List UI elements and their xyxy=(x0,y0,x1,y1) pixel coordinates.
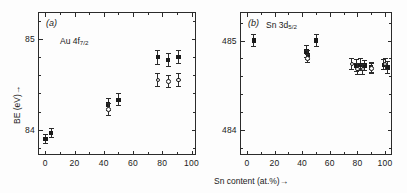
error-bar-cap xyxy=(383,69,388,70)
marker-filled-square xyxy=(49,131,53,135)
error-bar-cap xyxy=(106,115,111,116)
error-bar-cap xyxy=(362,60,367,61)
x-tick-label: 40 xyxy=(297,158,307,168)
y-tick xyxy=(389,58,392,59)
x-tick xyxy=(192,12,193,17)
error-bar-cap xyxy=(251,46,256,47)
data-point-open-circle xyxy=(174,73,182,87)
error-bar-cap xyxy=(176,73,181,74)
panel-b-series-label-sub: 5/2 xyxy=(288,23,297,30)
marker-filled-square xyxy=(176,55,180,59)
y-tick-label: 485 xyxy=(222,36,237,46)
x-tick xyxy=(275,151,276,156)
y-tick-label: 84 xyxy=(25,125,35,135)
x-tick xyxy=(45,12,46,17)
error-bar-cap xyxy=(106,103,111,104)
x-tick xyxy=(261,152,262,155)
error-bar-cap xyxy=(43,143,48,144)
error-bar-cap xyxy=(166,87,171,88)
error-bar-cap xyxy=(305,54,310,55)
marker-filled-square xyxy=(166,58,170,62)
panel-b-label: (b) xyxy=(248,18,259,28)
x-tick xyxy=(316,152,317,155)
x-tick xyxy=(104,151,105,156)
x-tick xyxy=(118,152,119,155)
data-point-filled-square xyxy=(47,128,55,138)
y-tick xyxy=(240,58,243,59)
x-tick xyxy=(316,12,317,15)
x-tick xyxy=(247,151,248,156)
y-tick xyxy=(38,21,41,22)
x-tick xyxy=(177,12,178,15)
error-bar-cap xyxy=(155,86,160,87)
marker-filled-square xyxy=(314,38,318,42)
x-tick-label: 80 xyxy=(352,158,362,168)
y-tick xyxy=(192,130,197,131)
marker-open-circle xyxy=(361,67,366,72)
y-tick xyxy=(193,112,196,113)
y-axis-title: BE (eV)→ xyxy=(12,85,22,123)
x-tick xyxy=(385,12,386,17)
x-tick xyxy=(162,12,163,17)
y-tick xyxy=(38,93,41,94)
x-tick-label: 100 xyxy=(184,158,199,168)
error-bar-cap xyxy=(385,73,390,74)
y-tick xyxy=(240,41,245,42)
error-bar-cap xyxy=(349,58,354,59)
panel-a-series-label-sub: 7/2 xyxy=(80,39,89,46)
x-tick xyxy=(60,152,61,155)
y-tick xyxy=(38,75,41,76)
x-tick xyxy=(275,12,276,17)
y-tick-label: 85 xyxy=(25,34,35,44)
data-point-open-circle xyxy=(381,58,389,71)
error-bar-cap xyxy=(116,93,121,94)
error-bar-cap xyxy=(251,34,256,35)
y-tick xyxy=(389,23,392,24)
data-point-open-circle xyxy=(359,64,367,75)
x-tick xyxy=(118,12,119,15)
y-tick xyxy=(38,112,41,113)
x-tick xyxy=(371,152,372,155)
x-tick xyxy=(89,12,90,15)
data-point-filled-square xyxy=(164,53,172,67)
marker-open-circle xyxy=(369,66,374,71)
x-tick xyxy=(133,12,134,17)
marker-open-circle xyxy=(166,79,171,84)
data-point-open-circle xyxy=(154,73,162,87)
error-bar-cap xyxy=(305,62,310,63)
marker-open-circle xyxy=(305,56,310,61)
y-tick xyxy=(389,76,392,77)
x-tick xyxy=(288,152,289,155)
xps-binding-energy-figure: (a) Au 4f7/2 0204060801008485 (b) Sn 3d5… xyxy=(0,0,407,193)
data-point-filled-square xyxy=(174,50,182,64)
error-bar-cap xyxy=(369,63,374,64)
y-tick xyxy=(38,148,41,149)
x-tick xyxy=(177,152,178,155)
error-bar-cap xyxy=(383,58,388,59)
y-tick xyxy=(388,41,393,42)
x-tick xyxy=(357,151,358,156)
x-tick xyxy=(288,12,289,15)
x-tick xyxy=(357,12,358,17)
error-bar-cap xyxy=(166,66,171,67)
marker-filled-square xyxy=(156,55,160,59)
y-tick xyxy=(38,39,43,40)
x-tick xyxy=(75,12,76,17)
x-tick xyxy=(104,12,105,17)
error-bar-cap xyxy=(360,64,365,65)
x-tick xyxy=(148,12,149,15)
y-tick xyxy=(193,148,196,149)
x-tick xyxy=(344,152,345,155)
error-bar-cap xyxy=(116,105,121,106)
marker-filled-square xyxy=(252,38,256,42)
error-bar-cap xyxy=(49,128,54,129)
panel-a-series-label-main: Au 4f xyxy=(60,36,80,46)
x-tick xyxy=(371,12,372,15)
y-tick xyxy=(193,57,196,58)
data-point-open-circle xyxy=(304,54,312,64)
x-tick xyxy=(75,151,76,156)
x-tick xyxy=(385,151,386,156)
panel-a-label: (a) xyxy=(46,18,57,28)
y-tick xyxy=(240,130,245,131)
error-bar-cap xyxy=(166,53,171,54)
